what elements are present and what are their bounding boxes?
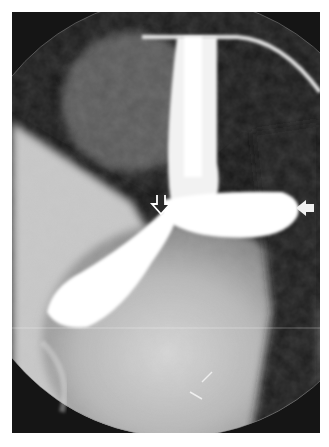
open-arrow-down-icon xyxy=(149,194,173,216)
solid-arrow-left-icon xyxy=(295,198,315,218)
radiograph-image xyxy=(12,12,320,433)
radiograph-frame xyxy=(12,12,320,433)
